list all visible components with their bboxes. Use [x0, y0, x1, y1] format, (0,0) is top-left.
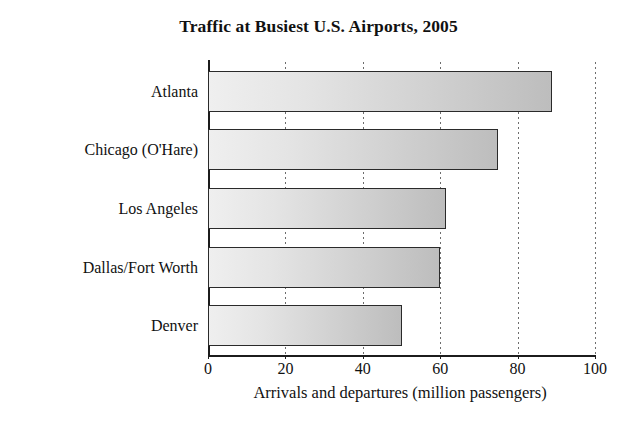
bar-dallas-fort-worth[interactable] — [208, 247, 440, 288]
category-label-los-angeles: Los Angeles — [0, 188, 198, 229]
bar-los-angeles[interactable] — [208, 188, 446, 229]
tick-mark-0 — [208, 355, 209, 359]
tick-mark-20 — [285, 355, 286, 359]
x-tick-label-0: 0 — [178, 360, 238, 378]
tick-mark-40 — [363, 355, 364, 359]
bar-row — [208, 305, 595, 346]
plot-area — [208, 62, 595, 355]
x-axis-line — [208, 355, 596, 357]
bar-atlanta[interactable] — [208, 71, 552, 112]
bar-row — [208, 247, 595, 288]
bar-chicago-o-hare[interactable] — [208, 129, 498, 170]
category-label-chicago-o-hare: Chicago (O'Hare) — [0, 129, 198, 170]
x-tick-label-100: 100 — [565, 360, 625, 378]
tick-mark-100 — [595, 355, 596, 359]
x-tick-label-20: 20 — [255, 360, 315, 378]
tick-mark-80 — [518, 355, 519, 359]
x-tick-label-80: 80 — [488, 360, 548, 378]
x-tick-label-40: 40 — [333, 360, 393, 378]
category-label-dallas-fort-worth: Dallas/Fort Worth — [0, 247, 198, 288]
bar-denver[interactable] — [208, 305, 402, 346]
gridline-100 — [595, 62, 596, 355]
bar-row — [208, 188, 595, 229]
category-label-atlanta: Atlanta — [0, 71, 198, 112]
x-tick-label-60: 60 — [410, 360, 470, 378]
x-axis-title: Arrivals and departures (million passeng… — [150, 383, 637, 403]
bar-chart: Traffic at Busiest U.S. Airports, 2005 A… — [0, 0, 637, 427]
chart-title: Traffic at Busiest U.S. Airports, 2005 — [0, 16, 637, 37]
bar-row — [208, 71, 595, 112]
tick-mark-60 — [440, 355, 441, 359]
category-label-denver: Denver — [0, 305, 198, 346]
bar-row — [208, 129, 595, 170]
